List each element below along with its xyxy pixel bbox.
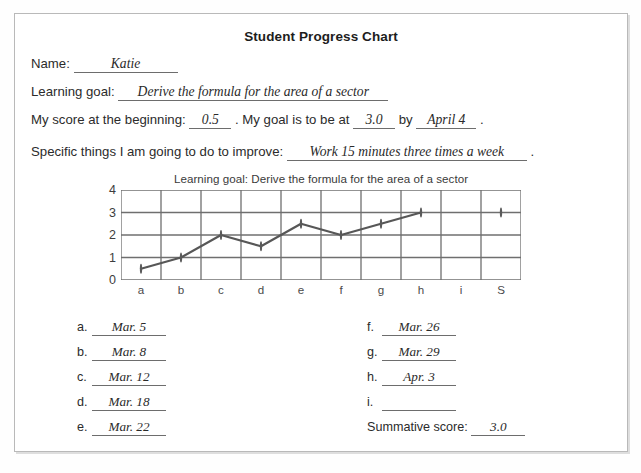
page-background: Student Progress Chart Name: Katie Learn… <box>0 0 641 473</box>
y-axis-tick: 1 <box>109 251 116 264</box>
chart-plot-area: 01234abcdefghiS <box>121 190 521 280</box>
assessment-date-label: g. <box>367 345 382 359</box>
y-axis-tick: 4 <box>109 184 116 197</box>
assessment-date-row: h.Apr. 3 <box>367 370 525 395</box>
by-label: by <box>399 112 413 127</box>
assessment-date-field[interactable]: Mar. 5 <box>92 320 166 336</box>
improvement-plan-label: Specific things I am going to do to impr… <box>31 144 283 159</box>
name-row: Name: Katie <box>31 56 178 73</box>
assessment-date-row: d.Mar. 18 <box>77 395 166 420</box>
assessment-date-row: e.Mar. 22 <box>77 420 166 445</box>
assessment-date-field[interactable]: Mar. 12 <box>92 370 166 386</box>
improvement-plan-period: . <box>531 144 535 159</box>
beginning-score-label: My score at the beginning: <box>31 112 186 127</box>
assessment-date-field[interactable]: Apr. 3 <box>382 370 456 386</box>
assessment-date-field[interactable]: Mar. 29 <box>382 345 456 361</box>
y-axis-tick: 2 <box>109 229 116 242</box>
learning-goal-label: Learning goal: <box>31 84 115 99</box>
assessment-date-row: i. <box>367 395 525 420</box>
assessment-dates-left-column: a.Mar. 5b.Mar. 8c.Mar. 12d.Mar. 18e.Mar.… <box>77 320 166 445</box>
summative-score-label: Summative score: <box>367 420 468 434</box>
assessment-date-label: e. <box>77 420 92 434</box>
goal-score-label: . My goal is to be at <box>235 112 349 127</box>
x-axis-tick: g <box>378 284 384 296</box>
worksheet-sheet: Student Progress Chart Name: Katie Learn… <box>14 13 628 452</box>
x-axis-tick: c <box>218 284 224 296</box>
y-axis-tick: 3 <box>109 206 116 219</box>
x-axis-tick: e <box>298 284 304 296</box>
name-field[interactable]: Katie <box>74 57 178 73</box>
assessment-dates-right-column: f.Mar. 26g.Mar. 29h.Apr. 3i. Summative s… <box>367 320 525 445</box>
goal-date-field[interactable]: April 4 <box>416 113 476 129</box>
assessment-date-field[interactable]: Mar. 22 <box>92 420 166 436</box>
name-label: Name: <box>31 56 70 71</box>
summative-score-row: Summative score: 3.0 <box>367 420 525 445</box>
x-axis-tick: b <box>178 284 184 296</box>
x-axis-tick: S <box>497 284 505 296</box>
summative-score-field[interactable]: 3.0 <box>471 420 525 436</box>
score-row: My score at the beginning: 0.5 . My goal… <box>31 112 484 129</box>
score-row-period: . <box>480 112 484 127</box>
improvement-plan-row: Specific things I am going to do to impr… <box>31 144 534 161</box>
assessment-date-label: b. <box>77 345 92 359</box>
x-axis-tick: f <box>339 284 342 296</box>
assessment-date-label: d. <box>77 395 92 409</box>
improvement-plan-field[interactable]: Work 15 minutes three times a week <box>287 145 527 161</box>
assessment-date-label: h. <box>367 370 382 384</box>
assessment-date-field[interactable]: Mar. 8 <box>92 345 166 361</box>
assessment-date-label: a. <box>77 320 92 334</box>
assessment-date-row: a.Mar. 5 <box>77 320 166 345</box>
assessment-date-label: f. <box>367 320 382 334</box>
assessment-date-row: b.Mar. 8 <box>77 345 166 370</box>
assessment-date-row: g.Mar. 29 <box>367 345 525 370</box>
x-axis-tick: i <box>460 284 463 296</box>
beginning-score-field[interactable]: 0.5 <box>189 113 231 129</box>
page-title: Student Progress Chart <box>15 29 627 44</box>
learning-goal-field[interactable]: Derive the formula for the area of a sec… <box>118 85 388 101</box>
assessment-date-row: f.Mar. 26 <box>367 320 525 345</box>
learning-goal-row: Learning goal: Derive the formula for th… <box>31 84 388 101</box>
x-axis-tick: a <box>138 284 144 296</box>
goal-score-field[interactable]: 3.0 <box>353 113 395 129</box>
chart-title: Learning goal: Derive the formula for th… <box>15 172 627 185</box>
assessment-date-field[interactable] <box>382 395 456 411</box>
y-axis-tick: 0 <box>109 274 116 287</box>
assessment-date-label: i. <box>367 395 382 409</box>
x-axis-tick: d <box>258 284 264 296</box>
assessment-date-field[interactable]: Mar. 18 <box>92 395 166 411</box>
assessment-date-label: c. <box>77 370 92 384</box>
assessment-date-field[interactable]: Mar. 26 <box>382 320 456 336</box>
chart-svg <box>121 190 521 280</box>
assessment-dates: a.Mar. 5b.Mar. 8c.Mar. 12d.Mar. 18e.Mar.… <box>15 320 627 445</box>
assessment-date-row: c.Mar. 12 <box>77 370 166 395</box>
progress-chart: Learning goal: Derive the formula for th… <box>15 172 627 320</box>
x-axis-tick: h <box>418 284 424 296</box>
